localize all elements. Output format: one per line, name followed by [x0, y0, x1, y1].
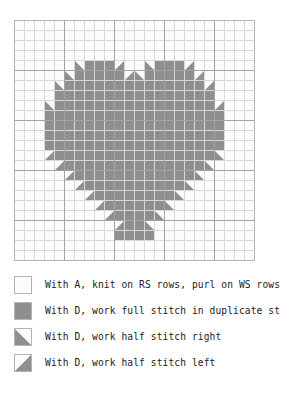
cell-full: [145, 111, 155, 121]
cell-full: [175, 111, 185, 121]
cell-full: [115, 191, 125, 201]
cell-full: [165, 191, 175, 201]
cell-full: [145, 131, 155, 141]
cell-full: [125, 151, 135, 161]
cell-full: [115, 91, 125, 101]
cell-full: [165, 111, 175, 121]
cell-full: [95, 181, 105, 191]
cell-full: [135, 201, 145, 211]
cell-full: [205, 91, 215, 101]
cell-full: [105, 111, 115, 121]
chart-grid: [14, 20, 255, 261]
cell-full: [185, 171, 195, 181]
cell-full: [105, 101, 115, 111]
cell-full: [165, 71, 175, 81]
cell-full: [105, 171, 115, 181]
cell-full: [135, 221, 145, 231]
cell-full: [155, 131, 165, 141]
legend-swatch-empty: [14, 276, 32, 294]
cell-full: [145, 71, 155, 81]
cell-full: [125, 121, 135, 131]
cell-full: [135, 101, 145, 111]
cell-full: [135, 181, 145, 191]
cell-full: [185, 71, 195, 81]
chart-legend: With A, knit on RS rows, purl on WS rows…: [14, 272, 276, 376]
cell-full: [85, 91, 95, 101]
cell-full: [95, 161, 105, 171]
legend-label: With A, knit on RS rows, purl on WS rows: [45, 279, 280, 291]
cell-full: [135, 81, 145, 91]
cell-full: [115, 141, 125, 151]
cell-full: [145, 181, 155, 191]
cell-full: [55, 91, 65, 101]
legend-swatch-fill: [15, 303, 31, 319]
legend-swatch-fill: [15, 329, 31, 345]
cell-full: [145, 161, 155, 171]
cell-full: [175, 161, 185, 171]
cell-full: [155, 111, 165, 121]
cell-full: [65, 121, 75, 131]
cell-full: [65, 141, 75, 151]
cell-full: [105, 131, 115, 141]
legend-swatch-half-left: [14, 354, 32, 372]
cell-full: [115, 181, 125, 191]
cell-full: [125, 201, 135, 211]
legend-label: With D, work half stitch right: [45, 331, 221, 343]
cell-full: [45, 131, 55, 141]
legend-swatch-fill: [15, 277, 31, 293]
cell-full: [165, 151, 175, 161]
cell-full: [145, 81, 155, 91]
cell-full: [155, 181, 165, 191]
cell-full: [165, 161, 175, 171]
legend-label: With D, work half stitch left: [45, 357, 215, 369]
cell-full: [105, 201, 115, 211]
cell-full: [205, 101, 215, 111]
cell-full: [45, 141, 55, 151]
cell-full: [95, 91, 105, 101]
cell-full: [135, 231, 145, 241]
cell-full: [155, 201, 165, 211]
cell-full: [115, 161, 125, 171]
cell-full: [195, 161, 205, 171]
cell-full: [115, 201, 125, 211]
cell-full: [175, 171, 185, 181]
cell-full: [105, 181, 115, 191]
cell-full: [165, 171, 175, 181]
cell-full: [75, 121, 85, 131]
cell-full: [185, 141, 195, 151]
cell-full: [205, 141, 215, 151]
cell-full: [165, 101, 175, 111]
cell-full: [155, 171, 165, 181]
cell-full: [115, 121, 125, 131]
cell-full: [55, 151, 65, 161]
cell-full: [135, 191, 145, 201]
cell-full: [75, 131, 85, 141]
cell-full: [145, 211, 155, 221]
cell-full: [155, 71, 165, 81]
cell-full: [115, 131, 125, 141]
cell-full: [185, 81, 195, 91]
cell-full: [95, 141, 105, 151]
cell-full: [135, 121, 145, 131]
cell-full: [95, 101, 105, 111]
legend-item: With D, work half stitch right: [14, 324, 276, 350]
cell-full: [85, 171, 95, 181]
cell-full: [95, 171, 105, 181]
cell-full: [95, 71, 105, 81]
cell-full: [155, 101, 165, 111]
cell-full: [185, 111, 195, 121]
cell-full: [105, 91, 115, 101]
cell-full: [155, 61, 165, 71]
cell-full: [195, 111, 205, 121]
cell-full: [75, 141, 85, 151]
cell-full: [175, 141, 185, 151]
cell-full: [45, 121, 55, 131]
cell-full: [105, 71, 115, 81]
cell-full: [175, 101, 185, 111]
cell-full: [165, 91, 175, 101]
cell-full: [125, 181, 135, 191]
cell-full: [175, 131, 185, 141]
cell-full: [55, 101, 65, 111]
cell-full: [65, 101, 75, 111]
cell-full: [165, 181, 175, 191]
